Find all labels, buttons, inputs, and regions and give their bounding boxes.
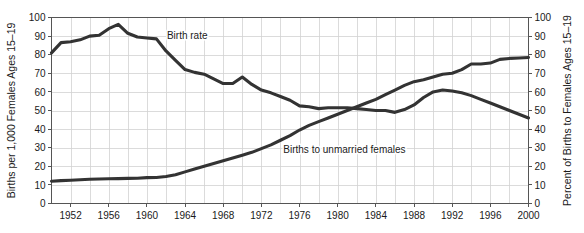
y-tick-label-right: 90	[535, 31, 547, 42]
chart-background	[0, 0, 584, 233]
x-tick-label: 1984	[365, 210, 388, 221]
y-tick-label-right: 0	[535, 198, 541, 209]
y-axis-left-title: Births per 1,000 Females Ages 15–19	[5, 23, 17, 199]
y-tick-label-right: 70	[535, 68, 547, 79]
x-tick-label: 1972	[250, 210, 273, 221]
x-tick-label: 1988	[403, 210, 426, 221]
y-tick-label-right: 30	[535, 142, 547, 153]
y-tick-label-left: 20	[34, 161, 46, 172]
y-tick-label-right: 40	[535, 124, 547, 135]
y-tick-label-right: 100	[535, 12, 552, 23]
series-annotation-0: Birth rate	[167, 30, 208, 41]
y-tick-label-left: 40	[34, 124, 46, 135]
x-tick-label: 1952	[59, 210, 82, 221]
y-tick-label-left: 60	[34, 87, 46, 98]
chart-figure: 1952195619601964196819721976198019841988…	[0, 0, 584, 233]
y-tick-label-left: 70	[34, 68, 46, 79]
x-tick-label: 1960	[136, 210, 159, 221]
y-tick-label-left: 0	[40, 198, 46, 209]
x-tick-label: 1964	[174, 210, 197, 221]
y-axis-right-title: Percent of Births to Females Ages 15–19	[561, 15, 573, 206]
birth-rate-line-chart: 1952195619601964196819721976198019841988…	[0, 0, 584, 233]
x-tick-label: 1976	[288, 210, 311, 221]
x-tick-label: 1992	[441, 210, 464, 221]
y-tick-label-left: 30	[34, 142, 46, 153]
y-tick-label-left: 80	[34, 49, 46, 60]
x-tick-label: 1968	[212, 210, 235, 221]
y-tick-label-left: 100	[29, 12, 46, 23]
series-annotation-1: Births to unmarried females	[283, 144, 405, 155]
y-tick-label-right: 20	[535, 161, 547, 172]
y-tick-label-left: 90	[34, 31, 46, 42]
y-tick-label-left: 10	[34, 180, 46, 191]
y-tick-label-right: 50	[535, 105, 547, 116]
y-tick-label-right: 60	[535, 87, 547, 98]
x-tick-label: 1996	[479, 210, 502, 221]
x-tick-label: 1956	[98, 210, 121, 221]
y-tick-label-right: 80	[535, 49, 547, 60]
x-tick-label: 1980	[327, 210, 350, 221]
y-tick-label-left: 50	[34, 105, 46, 116]
x-tick-label: 2000	[517, 210, 540, 221]
y-tick-label-right: 10	[535, 180, 547, 191]
